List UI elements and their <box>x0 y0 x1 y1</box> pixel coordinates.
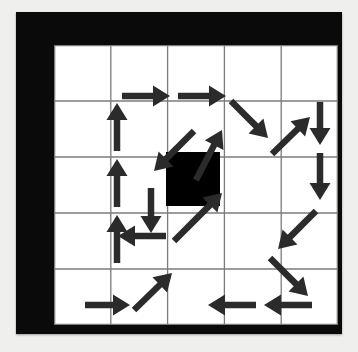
screenshot-canvas <box>0 0 358 352</box>
center-black-square <box>166 152 220 206</box>
black-frame-border <box>16 12 342 334</box>
grid-board <box>54 45 338 325</box>
grid-lines-layer <box>54 45 338 325</box>
